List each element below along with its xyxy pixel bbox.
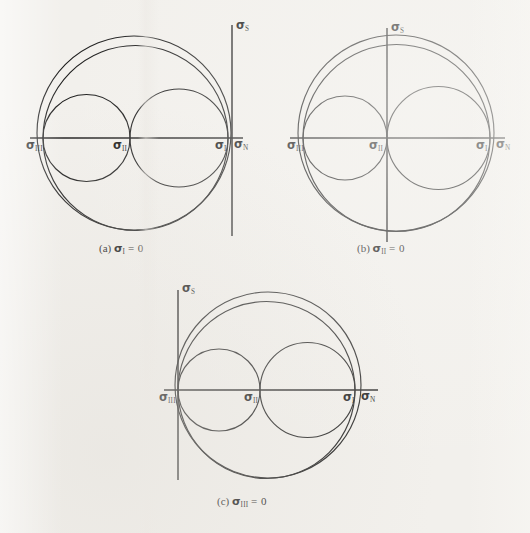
figure-c-label-sigma-III: σIII xyxy=(159,392,176,404)
figure-c-mohr-circles: σIII σII σI σN σS (c) σIII = 0 xyxy=(130,265,400,533)
figure-c-caption: (c) σIII = 0 xyxy=(217,495,267,508)
figure-a-label-sigma-II: σII xyxy=(113,140,127,152)
figure-b-axis-label-sigma-S: σS xyxy=(391,22,404,34)
figure-a-svg xyxy=(0,0,265,266)
figure-a-caption: (a) σI = 0 xyxy=(99,242,144,255)
figure-b-label-sigma-III: σIII xyxy=(287,140,304,152)
figure-a-label-sigma-I: σI xyxy=(215,140,227,152)
figure-a-mohr-circles: σIII σII σI σN σS (a) σI = 0 xyxy=(0,0,265,266)
figure-a-axis-label-sigma-S: σS xyxy=(236,20,249,32)
figure-a-outer-offset-circle xyxy=(37,36,231,230)
figure-b-label-sigma-II: σII xyxy=(369,140,383,152)
figure-c-label-sigma-II: σII xyxy=(244,392,258,404)
figure-b-svg xyxy=(265,0,530,266)
figure-a-axis-label-sigma-N: σN xyxy=(234,139,248,151)
figure-a-label-sigma-III: σIII xyxy=(26,140,43,152)
figure-c-axis-label-sigma-S: σS xyxy=(182,283,195,295)
figure-b-label-sigma-I: σI xyxy=(476,140,488,152)
figure-b-axis-label-sigma-N: σN xyxy=(496,139,510,151)
figure-c-axis-label-sigma-N: σN xyxy=(361,391,375,403)
figure-c-label-sigma-I: σI xyxy=(343,392,355,404)
figure-c-outer-offset-circle xyxy=(175,292,361,478)
figure-b-caption: (b) σII = 0 xyxy=(357,242,405,255)
figure-b-mohr-circles: σIII σII σI σN σS (b) σII = 0 xyxy=(265,0,530,266)
